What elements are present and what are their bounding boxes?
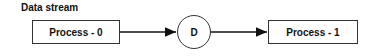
node-label: Process - 0 bbox=[49, 27, 102, 38]
node-process-0: Process - 0 bbox=[32, 20, 120, 44]
node-label: Process - 1 bbox=[286, 27, 339, 38]
node-process-1: Process - 1 bbox=[268, 20, 358, 44]
node-d: D bbox=[177, 15, 211, 49]
node-label: D bbox=[190, 27, 197, 38]
